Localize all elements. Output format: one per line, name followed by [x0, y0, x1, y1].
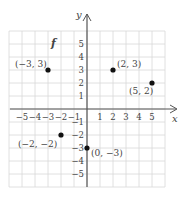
x-tick-label: 2 — [110, 112, 115, 122]
y-tick-label: 4 — [79, 52, 84, 62]
y-tick-label: −5 — [71, 169, 84, 179]
data-point — [58, 132, 63, 137]
y-tick-label: 3 — [79, 65, 84, 75]
data-point — [149, 80, 154, 85]
point-label: (2, 3) — [117, 59, 141, 69]
x-tick-label: 3 — [123, 112, 128, 122]
data-point — [110, 67, 115, 72]
x-tick-label: −5 — [16, 112, 29, 122]
function-label: f — [50, 37, 58, 50]
y-tick-label: −2 — [71, 130, 84, 140]
y-tick-label: −3 — [71, 143, 84, 153]
data-point — [84, 145, 89, 150]
point-label: (−3, 3) — [15, 59, 47, 69]
x-tick-label: 1 — [97, 112, 102, 122]
x-tick-label: −4 — [29, 112, 42, 122]
y-tick-label: −4 — [71, 156, 84, 166]
y-axis-label: y — [75, 9, 82, 20]
x-axis-label: x — [172, 113, 178, 124]
x-tick-label: 5 — [149, 112, 154, 122]
y-tick-label: 1 — [79, 91, 84, 101]
point-label: (−2, −2) — [18, 139, 57, 149]
coordinate-plane: x y f −5−4−3−2−112345−5−4−3−2−112345 (−3… — [0, 0, 189, 197]
x-tick-label: −3 — [42, 112, 55, 122]
point-label: (0, −3) — [91, 148, 123, 158]
y-tick-label: 2 — [79, 78, 84, 88]
y-tick-label: 5 — [79, 39, 84, 49]
point-label: (5, 2) — [129, 86, 153, 96]
x-tick-label: −2 — [55, 112, 68, 122]
x-tick-label: 4 — [136, 112, 141, 122]
y-tick-label: −1 — [71, 117, 84, 127]
